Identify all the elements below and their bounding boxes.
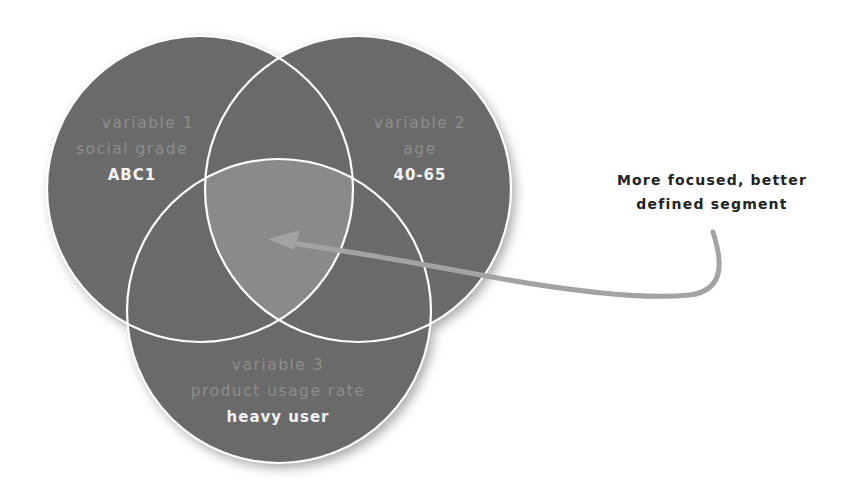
variable-3-value: heavy user [227,408,330,426]
variable-3-label: variable 3 [232,356,324,374]
variable-1-dimension: social grade [76,140,188,158]
variable-1-label: variable 1 [102,114,194,132]
annotation-line-2: defined segment [636,196,787,212]
annotation-line-1: More focused, better [617,172,807,188]
variable-2-label: variable 2 [374,114,466,132]
variable-2-dimension: age [403,140,436,158]
venn-diagram: variable 1 social grade ABC1 variable 2 … [0,0,859,494]
variable-1-value: ABC1 [108,166,157,184]
variable-2-value: 40-65 [394,166,447,184]
variable-3-dimension: product usage rate [191,382,366,400]
